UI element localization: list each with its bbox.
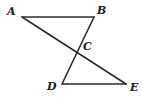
vertex-label-e: E [130, 82, 138, 93]
vertex-label-c: C [83, 41, 92, 52]
vertex-label-a: A [7, 6, 16, 17]
figure-canvas [0, 0, 143, 98]
vertex-label-b: B [97, 5, 106, 16]
segment-AE [22, 17, 126, 84]
vertex-label-d: D [47, 81, 57, 92]
geometry-figure: A B C D E [0, 0, 143, 98]
